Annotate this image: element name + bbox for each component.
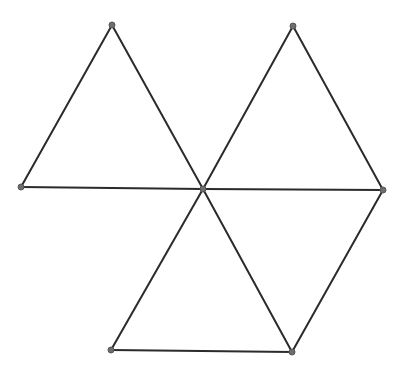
- vertex-point-br: [289, 349, 295, 355]
- edge-l-c: [21, 187, 203, 189]
- vertex-point-c: [200, 186, 206, 192]
- edge-c-bl: [111, 189, 203, 350]
- vertex-point-t2: [290, 23, 296, 29]
- edge-c-t2: [203, 26, 293, 189]
- vertex-point-bl: [108, 347, 114, 353]
- diagram-canvas: [0, 0, 398, 366]
- edge-t2-r: [293, 26, 383, 190]
- vertex-point-t1: [109, 22, 115, 28]
- vertex-point-r: [380, 187, 386, 193]
- edge-l-t1: [21, 25, 112, 187]
- vertex-point-l: [18, 184, 24, 190]
- edge-c-br: [203, 189, 292, 352]
- edge-t1-c: [112, 25, 203, 189]
- edge-c-r: [203, 189, 383, 190]
- edge-r-br: [292, 190, 383, 352]
- edge-bl-br: [111, 350, 292, 352]
